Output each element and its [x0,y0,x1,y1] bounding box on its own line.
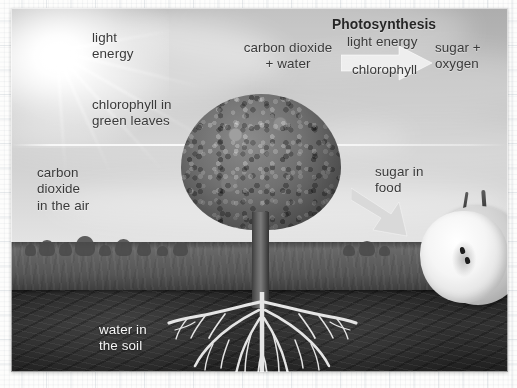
tree-roots [165,292,360,372]
label-chlorophyll-leaves: chlorophyll in green leaves [92,97,172,130]
label-reactants: carbon dioxide + water [233,40,343,73]
label-products: sugar + oxygen [435,40,481,73]
diagram-title: Photosynthesis [332,17,436,32]
label-sugar-in-food: sugar in food [375,164,423,197]
label-carbon-dioxide-air: carbon dioxide in the air [37,165,89,214]
photosynthesis-diagram-photo: Photosynthesis light energy carbon dioxi… [11,8,508,372]
tree-canopy [181,94,341,230]
label-below-arrow: chlorophyll [352,62,417,78]
label-above-arrow: light energy [347,34,417,50]
label-water-soil: water in the soil [99,322,147,355]
tree-illustration [181,94,341,300]
label-light-energy: light energy [92,30,134,63]
leaf-texture [181,94,341,230]
